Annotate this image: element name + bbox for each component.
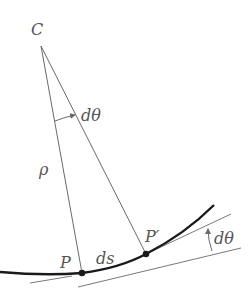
angle-arc-right [208, 229, 212, 251]
label-radius-rho: ρ [38, 160, 49, 179]
diagram-canvas: C dθ ρ P ds P′ dθ [0, 0, 251, 298]
label-angle-top: dθ [81, 106, 101, 125]
point-p-prime-dot [143, 251, 150, 258]
label-point-p-prime: P′ [144, 227, 160, 246]
label-arc-length-ds: ds [96, 249, 114, 268]
angle-arc-top [55, 115, 75, 121]
label-point-p: P [59, 253, 71, 272]
tangent-line-p-left [30, 276, 72, 283]
curvature-diagram: C dθ ρ P ds P′ dθ [0, 0, 251, 298]
radius-line-to-p-prime [41, 46, 146, 254]
label-center-c: C [31, 20, 43, 39]
label-angle-right: dθ [214, 229, 234, 248]
point-p-dot [79, 270, 86, 277]
